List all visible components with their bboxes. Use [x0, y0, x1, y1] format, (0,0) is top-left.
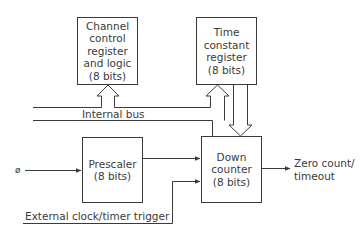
time-constant-register-block: Time constant register (8 bits) [196, 17, 257, 85]
output-label-line-1: Zero count/ [294, 157, 355, 170]
internal-bus-lower-line [33, 121, 213, 137]
prescaler-line-1: Prescaler [88, 158, 136, 171]
down-counter-line-3: (8 bits) [211, 176, 251, 189]
time-constant-line-4: (8 bits) [204, 64, 250, 77]
time-constant-line-1: Time [204, 26, 250, 39]
down-counter-line-2: counter [211, 163, 251, 176]
channel-control-line-5: (8 bits) [84, 70, 132, 83]
prescaler-block: Prescaler (8 bits) [82, 137, 143, 203]
channel-control-line-1: Channel [84, 20, 132, 33]
time-constant-line-2: constant [204, 39, 250, 52]
channel-control-line-2: control [84, 32, 132, 45]
output-label-line-2: timeout [294, 170, 335, 183]
external-trigger-label: External clock/timer trigger [25, 210, 169, 223]
clock-input-label: ø [15, 164, 21, 177]
down-counter-line-1: Down [211, 151, 251, 164]
channel-control-line-3: register [84, 45, 132, 58]
prescaler-line-2: (8 bits) [88, 170, 136, 183]
channel-control-line-4: and logic [84, 57, 132, 70]
down-counter-block: Down counter (8 bits) [201, 136, 262, 203]
channel-control-register-block: Channel control register and logic (8 bi… [77, 17, 138, 85]
time-constant-to-counter-bus [229, 84, 252, 136]
wiring-layer [0, 0, 362, 239]
time-constant-line-3: register [204, 51, 250, 64]
internal-bus-label: Internal bus [82, 108, 145, 121]
